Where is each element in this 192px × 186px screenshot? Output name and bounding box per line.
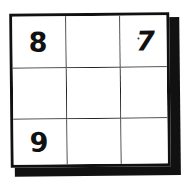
grid-cell-r3c2[interactable] [67, 119, 121, 165]
grid-cell-r3c1[interactable]: 9 [13, 119, 67, 165]
cell-digit: 8 [28, 28, 47, 55]
cell-digit: 9 [29, 128, 48, 155]
grid-cell-r1c3[interactable]: 7 [120, 15, 167, 67]
puzzle-board-wrapper: 8 7 9 [9, 12, 171, 168]
grid-cell-r2c2[interactable] [67, 68, 122, 120]
grid-cell-r1c1[interactable]: 8 [12, 16, 67, 69]
grid-cell-r3c3[interactable] [121, 118, 167, 163]
puzzle-grid: 8 7 9 [9, 12, 171, 168]
print-speck-mark [137, 37, 139, 39]
grid-cell-r1c2[interactable] [66, 16, 121, 69]
grid-cell-r2c1[interactable] [13, 68, 68, 120]
grid-cell-r2c3[interactable] [121, 67, 168, 118]
cell-digit: 7 [136, 27, 155, 54]
